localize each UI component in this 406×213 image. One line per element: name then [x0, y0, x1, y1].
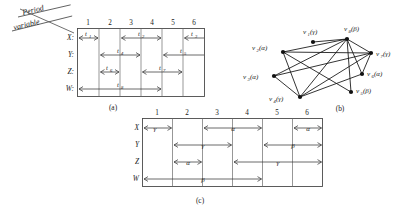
vertex-label-v2-group: (α)	[259, 44, 268, 52]
interval-a-t6-sub: 6	[110, 68, 113, 73]
interval-a-t1: t 1	[79, 30, 98, 40]
vertex-labels: v 1 (γ) v 2 (α) v 3 (α) v 4 (γ) v 5	[243, 25, 391, 104]
col-number-c-3: 3	[215, 109, 219, 117]
figure-svg: Period variable 1 2 3 4 5 6 X: Y: Z: W: …	[0, 0, 406, 213]
vertex-v7[interactable]	[369, 51, 373, 55]
vertex-label-v4-letter: v	[269, 95, 273, 103]
vertex-label-v6-letter: v	[367, 70, 371, 78]
col-number-c-5: 5	[275, 109, 279, 117]
interval-c-w-1-symbol: β	[200, 176, 205, 184]
vertex-label-v4: v 4 (γ)	[269, 95, 284, 104]
col-number-c-6: 6	[305, 109, 309, 117]
interval-a-t7-sub: 7	[163, 68, 166, 73]
vertex-label-v5-group: (β)	[363, 87, 372, 95]
interval-c-x-3: α	[294, 125, 322, 133]
row-label-c-w: W	[133, 174, 140, 183]
interval-c-x-2: α	[204, 125, 262, 133]
vertex-label-v1: v 1 (γ)	[303, 28, 318, 37]
interval-a-t5: t 5	[164, 47, 205, 57]
interval-a-t3-label: t	[191, 30, 193, 37]
caption-a: (a)	[109, 103, 118, 112]
interval-a-t8-label: t	[117, 81, 119, 88]
vertex-v8[interactable]	[345, 37, 349, 41]
vertex-label-v1-group: (γ)	[310, 28, 318, 36]
vertex-label-v2-letter: v	[252, 44, 256, 52]
col-number-a-4: 4	[150, 19, 154, 27]
col-number-a-5: 5	[171, 19, 175, 27]
interval-c-x-2-symbol: α	[231, 125, 235, 133]
col-number-a-1: 1	[86, 19, 90, 27]
interval-a-t6: t 6	[101, 64, 120, 74]
col-number-a-3: 3	[129, 19, 133, 27]
interval-c-y-2-symbol: β	[290, 142, 295, 150]
interval-a-t4-sub: 4	[121, 51, 124, 56]
interval-a-t5-sub: 5	[184, 51, 187, 56]
row-label-c-z: Z	[135, 157, 140, 166]
interval-a-t7-label: t	[159, 64, 161, 71]
panel-c: 1 2 3 4 5 6 X Y Z W γ α	[133, 109, 323, 205]
vertex-label-v5-letter: v	[356, 87, 360, 95]
col-number-c-4: 4	[245, 109, 249, 117]
interval-a-t3-sub: 3	[195, 34, 198, 39]
vertex-label-v1-letter: v	[303, 28, 307, 36]
col-number-a-6: 6	[192, 19, 196, 27]
col-number-c-2: 2	[185, 109, 189, 117]
vertex-label-v8-group: (β)	[351, 25, 360, 33]
row-label-c-x: X	[133, 123, 139, 132]
interval-a-t3: t 3	[185, 30, 205, 40]
row-label-a-y: Y:	[68, 50, 74, 59]
caption-b: (b)	[336, 104, 345, 113]
figure-root: Period variable 1 2 3 4 5 6 X: Y: Z: W: …	[0, 0, 406, 213]
vertex-label-v6: v 6 (α)	[367, 70, 383, 79]
row-label-a-w: W:	[66, 84, 74, 93]
vertex-label-v7-letter: v	[376, 50, 380, 58]
vertex-label-v5: v 5 (β)	[356, 87, 372, 96]
vertex-label-v4-group: (γ)	[276, 95, 284, 103]
vertex-label-v3-group: (α)	[250, 73, 259, 81]
vertex-v4[interactable]	[298, 95, 302, 99]
vertex-v2[interactable]	[281, 50, 285, 54]
vertex-label-v2: v 2 (α)	[252, 44, 268, 53]
panel-a: Period variable 1 2 3 4 5 6 X: Y: Z: W: …	[12, 3, 205, 112]
interval-a-t2-sub: 2	[142, 34, 145, 39]
interval-c-y-2: β	[264, 142, 322, 150]
interval-c-w-1: β	[144, 176, 262, 184]
vertex-v3[interactable]	[272, 74, 276, 78]
col-number-a-2: 2	[108, 19, 112, 27]
interval-c-z-2: γ	[234, 159, 322, 167]
interval-a-t1-sub: 1	[89, 34, 91, 39]
vertex-label-v8: v 8 (β)	[344, 25, 360, 34]
vertex-v5[interactable]	[349, 90, 353, 94]
interval-c-x-3-symbol: α	[306, 125, 310, 133]
interval-a-t8-sub: 8	[121, 85, 124, 90]
col-number-c-1: 1	[155, 109, 159, 117]
interval-a-t5-label: t	[180, 47, 182, 54]
interval-a-t4-label: t	[117, 47, 119, 54]
vertex-label-v8-letter: v	[344, 25, 348, 33]
vertex-v6[interactable]	[360, 72, 364, 76]
interval-c-x-1-symbol: γ	[154, 125, 157, 133]
row-label-a-x: X:	[66, 33, 74, 42]
interval-c-y-1: γ	[174, 142, 232, 150]
interval-c-z-2-symbol: γ	[277, 159, 280, 167]
interval-a-t1-label: t	[85, 30, 87, 37]
interval-a-t6-label: t	[106, 64, 108, 71]
caption-c: (c)	[196, 196, 205, 205]
interval-c-z-1: α	[174, 159, 202, 167]
vertex-v1[interactable]	[311, 40, 315, 44]
vertex-label-v7-group: (γ)	[383, 50, 391, 58]
vertex-label-v7: v 7 (γ)	[376, 50, 391, 59]
row-label-c-y: Y	[135, 140, 140, 149]
interval-c-x-1: γ	[144, 125, 172, 133]
row-label-a-z: Z:	[67, 67, 74, 76]
vertex-label-v3-letter: v	[243, 73, 247, 81]
interval-a-t2-label: t	[138, 30, 140, 37]
header-variable-label: variable	[12, 17, 40, 32]
vertex-label-v6-group: (α)	[374, 70, 383, 78]
panel-b: v 1 (γ) v 2 (α) v 3 (α) v 4 (γ) v 5	[243, 25, 391, 113]
interval-c-y-1-symbol: γ	[202, 142, 205, 150]
interval-c-z-1-symbol: α	[186, 159, 190, 167]
vertex-label-v3: v 3 (α)	[243, 73, 259, 82]
